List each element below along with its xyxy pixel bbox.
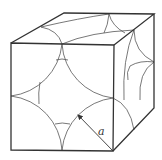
radius-arrow <box>78 115 113 151</box>
top-face <box>11 13 154 45</box>
unit-cell-diagram: a <box>0 0 162 160</box>
dimension-a: a <box>78 115 113 151</box>
right-face <box>113 14 154 151</box>
dimension-label: a <box>98 125 105 138</box>
